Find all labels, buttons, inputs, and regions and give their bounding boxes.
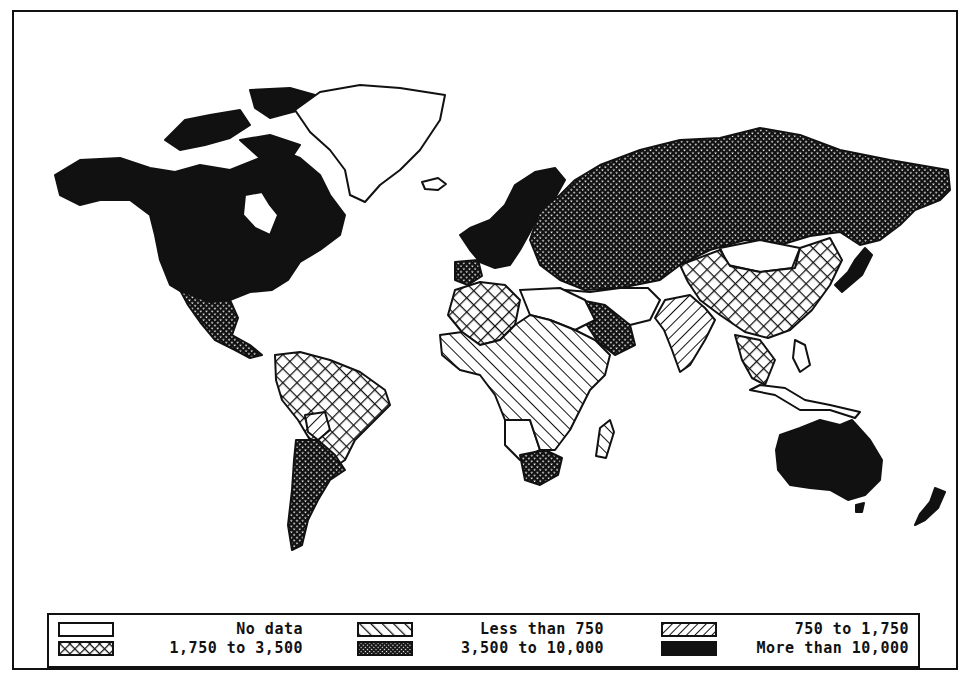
legend-item-less-than-750: Less than 750: [357, 619, 604, 638]
legend-item-more-than-10000: More than 10,000: [661, 638, 909, 657]
region-north-america: [55, 150, 345, 302]
swatch-diagonal-back-icon: [661, 622, 717, 637]
legend-label: 1,750 to 3,500: [170, 639, 303, 657]
region-indonesia: [750, 385, 860, 418]
region-philippines: [793, 340, 810, 372]
swatch-crosshatch-large-icon: [58, 641, 114, 656]
region-japan: [835, 248, 872, 292]
legend-label: 3,500 to 10,000: [461, 639, 604, 657]
legend-item-750-1750: 750 to 1,750: [661, 619, 909, 638]
legend-label: Less than 750: [480, 620, 604, 638]
swatch-crosshatch-fine-icon: [357, 641, 413, 656]
swatch-diagonal-forward-icon: [357, 622, 413, 637]
region-mexico: [180, 290, 262, 358]
legend: No data 1,750 to 3,500 Less than 750 3,5…: [47, 613, 920, 668]
world-map: [12, 10, 958, 610]
region-madagascar: [596, 420, 614, 458]
region-tasmania: [856, 503, 864, 512]
region-southern-cone: [288, 440, 345, 550]
legend-item-1750-3500: 1,750 to 3,500: [58, 638, 303, 657]
legend-item-no-data: No data: [58, 619, 303, 638]
swatch-blank-icon: [58, 622, 114, 637]
region-arctic-islands: [165, 88, 315, 160]
region-india: [655, 295, 715, 372]
legend-label: 750 to 1,750: [795, 620, 909, 638]
region-new-zealand: [915, 488, 945, 525]
legend-column-2: Less than 750 3,500 to 10,000: [357, 619, 604, 663]
region-australia: [776, 420, 882, 500]
legend-column-3: 750 to 1,750 More than 10,000: [661, 619, 909, 663]
legend-label: No data: [236, 620, 303, 638]
region-iceland: [422, 178, 446, 190]
swatch-solid-icon: [661, 641, 717, 656]
region-southeast-asia: [735, 335, 775, 385]
region-south-africa: [520, 450, 562, 485]
region-iberia: [455, 260, 482, 285]
legend-item-3500-10000: 3,500 to 10,000: [357, 638, 604, 657]
legend-label: More than 10,000: [757, 639, 910, 657]
legend-column-1: No data 1,750 to 3,500: [58, 619, 303, 663]
